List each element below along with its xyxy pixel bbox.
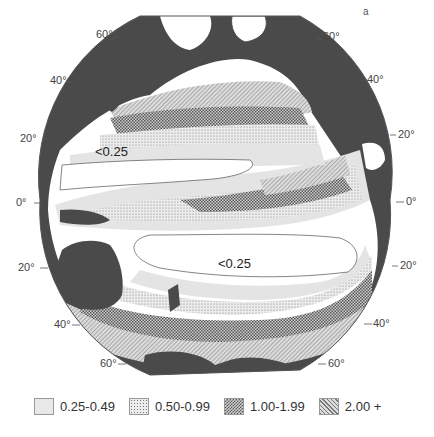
swatch-checker-icon	[224, 398, 244, 415]
lat-label-right-20s: 20°	[400, 259, 417, 271]
panel-label: a	[363, 6, 369, 17]
lat-label-right-40n: 40°	[367, 73, 384, 85]
swatch-light-fill-icon	[34, 398, 54, 415]
lat-label-left-40n: 40°	[50, 74, 67, 86]
swatch-hatch-icon	[319, 398, 339, 415]
lat-label-left-40s: 40°	[54, 318, 71, 330]
pacific-globe-map: <0.25 <0.25	[0, 0, 434, 437]
lat-label-left-60n: 60°	[96, 28, 113, 40]
lat-label-left-60s: 60°	[100, 357, 117, 369]
region-label-north: <0.25	[95, 144, 128, 159]
lat-label-right-60s: 60°	[328, 357, 345, 369]
legend-label: 0.25-0.49	[60, 399, 115, 414]
lat-label-left-20s: 20°	[18, 261, 35, 273]
legend-item-3: 2.00 +	[319, 398, 382, 415]
legend-label: 1.00-1.99	[250, 399, 305, 414]
lat-label-right-0: 0°	[406, 195, 417, 207]
legend-label: 0.50-0.99	[155, 399, 210, 414]
lat-label-left-0: 0°	[16, 196, 27, 208]
legend: 0.25-0.49 0.50-0.99 1.00-1.99 2.00 +	[34, 398, 381, 415]
lat-label-left-20n: 20°	[20, 132, 37, 144]
swatch-stipple-icon	[129, 398, 149, 415]
lat-label-right-40s: 40°	[373, 317, 390, 329]
legend-item-2: 1.00-1.99	[224, 398, 305, 415]
legend-label: 2.00 +	[345, 399, 382, 414]
lat-label-right-20n: 20°	[398, 128, 415, 140]
legend-item-1: 0.50-0.99	[129, 398, 210, 415]
lat-label-right-60n: 60°	[323, 30, 340, 42]
region-label-south: <0.25	[218, 256, 251, 271]
legend-item-0: 0.25-0.49	[34, 398, 115, 415]
